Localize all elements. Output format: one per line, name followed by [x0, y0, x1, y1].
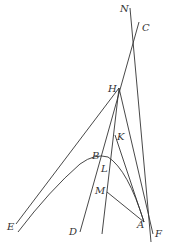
label-d: D — [68, 226, 77, 237]
line-h-k-l — [102, 88, 119, 234]
label-m: M — [94, 185, 106, 196]
label-l: L — [100, 163, 108, 174]
label-f: F — [154, 228, 163, 239]
label-n: N — [119, 3, 130, 14]
label-h: H — [107, 83, 117, 94]
label-e: E — [6, 221, 15, 232]
label-b: B — [91, 150, 99, 161]
label-c: C — [142, 22, 150, 33]
label-k: K — [116, 131, 125, 142]
parabola-curve — [18, 156, 144, 232]
label-a: A — [136, 219, 144, 230]
line-c-d — [80, 22, 139, 232]
geometry-diagram: N C H K B L M E D A F — [0, 0, 177, 248]
line-m-a — [107, 192, 144, 222]
